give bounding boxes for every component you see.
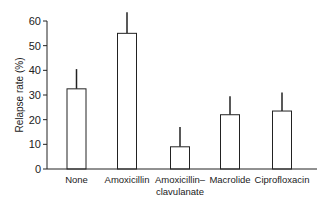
y-axis-label: Relapse rate (%) <box>14 57 25 132</box>
y-tick-label: 30 <box>29 89 41 101</box>
bar-chart: 0102030405060 NoneAmoxicillinAmoxicillin… <box>0 0 324 201</box>
x-tick-label: Macrolide <box>209 174 250 185</box>
y-tick-label: 60 <box>29 15 41 27</box>
x-axis: NoneAmoxicillinAmoxicillin–clavulanateMa… <box>47 169 317 197</box>
bar <box>67 69 86 169</box>
y-axis: 0102030405060 <box>29 15 47 175</box>
x-tick-label: Ciprofloxacin <box>255 174 310 185</box>
y-tick-label: 20 <box>29 114 41 126</box>
x-tick-label: Amoxicillin <box>105 174 150 185</box>
y-tick-label: 10 <box>29 138 41 150</box>
bars <box>67 12 292 169</box>
bar <box>221 96 240 169</box>
y-tick-label: 0 <box>35 163 41 175</box>
y-tick-label: 50 <box>29 40 41 52</box>
bar <box>171 127 190 169</box>
bar <box>118 12 137 169</box>
x-tick-label: clavulanate <box>156 186 204 197</box>
x-tick-label: Amoxicillin– <box>155 174 206 185</box>
y-tick-label: 40 <box>29 64 41 76</box>
bar <box>273 93 292 169</box>
x-tick-label: None <box>65 174 88 185</box>
